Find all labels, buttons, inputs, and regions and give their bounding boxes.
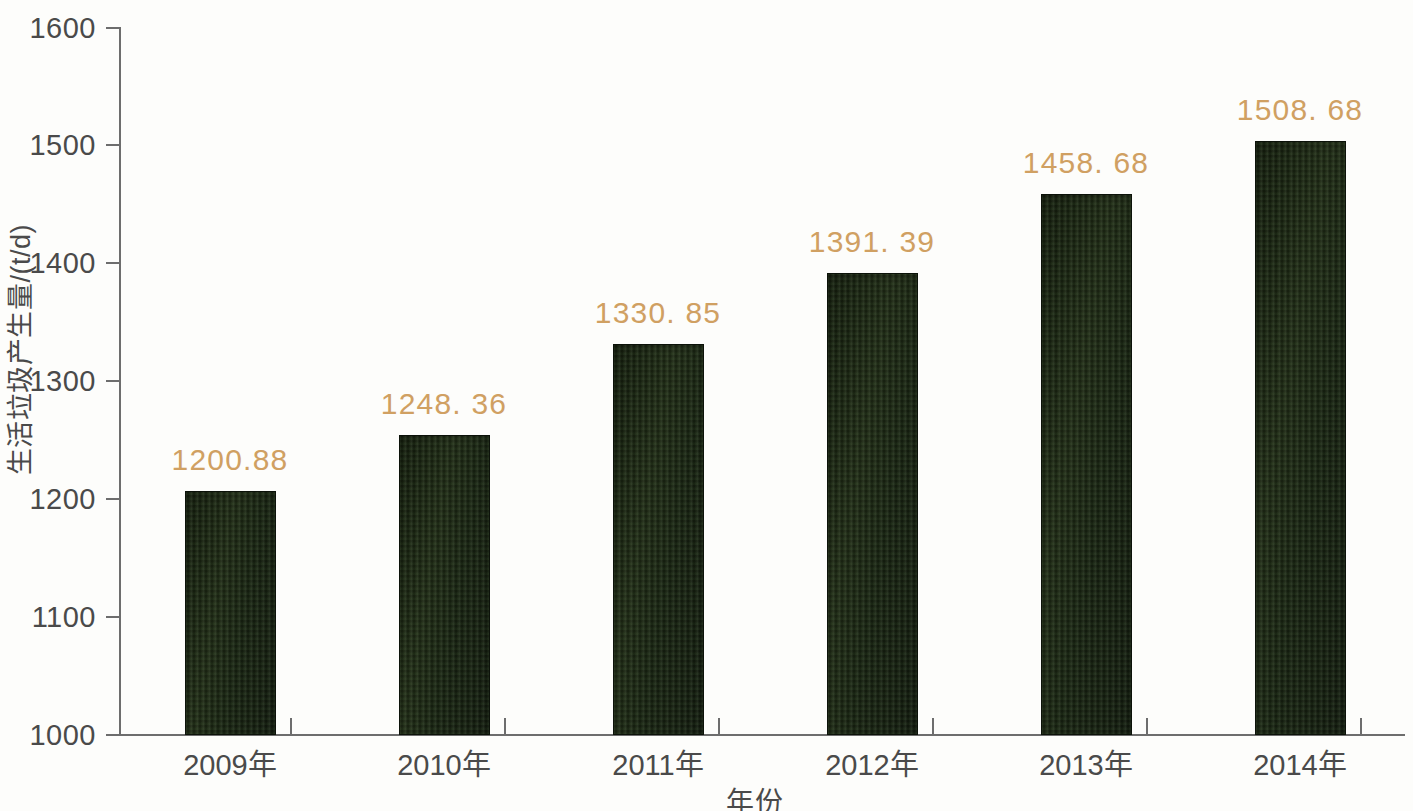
y-axis-tick [106,144,120,146]
y-axis-tick-label: 1100 [32,601,96,634]
x-axis-tick [1360,718,1362,735]
bar-value-label-2014: 1508. 68 [1200,93,1400,127]
y-axis-tick-label: 1300 [29,365,96,398]
x-axis-title: 年份 [726,787,784,811]
x-axis-tick [504,718,506,735]
y-axis-tick [106,734,120,736]
y-axis-tick-label: 1000 [29,719,96,752]
bar-value-label-2013: 1458. 68 [986,146,1186,180]
x-axis-category-label-2012: 2012年 [772,741,972,783]
x-axis-category-label-2009: 2009年 [130,741,330,783]
bar-2010[interactable] [399,435,490,735]
y-axis-tick [106,380,120,382]
y-axis-tick-label: 1200 [29,483,96,516]
x-axis-tick [290,718,292,735]
bar-2012[interactable] [827,273,918,735]
y-axis-tick [106,616,120,618]
y-axis-tick [106,27,120,29]
bar-value-label-2011: 1330. 85 [558,296,758,330]
y-axis-tick-label: 1600 [29,12,96,45]
x-axis-tick [932,718,934,735]
bar-2013[interactable] [1041,194,1132,735]
bar-chart-figure: 生活垃圾产生量/(t/d) 1000 1100 1200 1300 1400 1… [0,0,1413,811]
bar-value-label-2010: 1248. 36 [344,387,544,421]
x-axis-category-label-2013: 2013年 [986,741,1186,783]
bar-value-label-2009: 1200.88 [130,443,330,477]
x-axis-category-label-2011: 2011年 [558,741,758,783]
y-axis-tick [106,262,120,264]
bar-2014[interactable] [1255,141,1346,735]
x-axis-category-label-2014: 2014年 [1200,741,1400,783]
y-axis-tick-label: 1400 [29,247,96,280]
x-axis-category-label-2010: 2010年 [344,741,544,783]
y-axis-tick [106,498,120,500]
x-axis-tick [718,718,720,735]
x-axis-title-wrapper: 年份 [0,780,1413,811]
bar-2009[interactable] [185,491,276,735]
bar-value-label-2012: 1391. 39 [772,225,972,259]
y-axis-tick-label: 1500 [29,129,96,162]
x-axis-tick [1146,718,1148,735]
x-axis-line [119,734,1405,736]
bar-2011[interactable] [613,344,704,735]
